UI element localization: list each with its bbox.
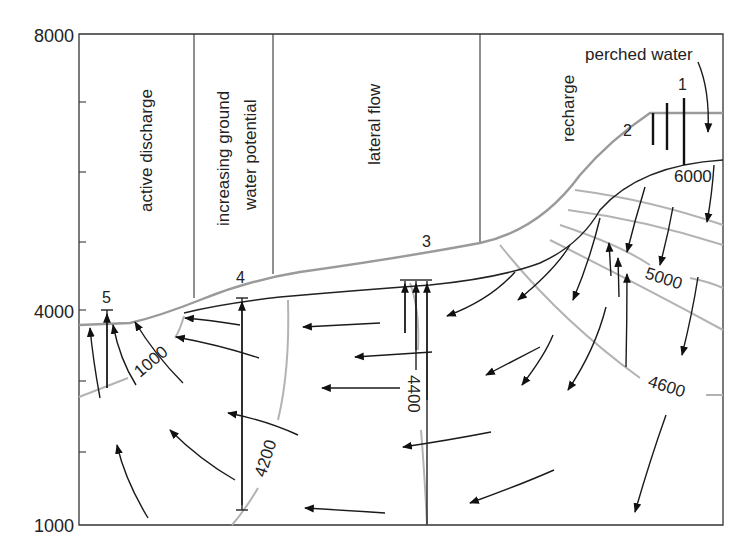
zone-label-increasing-potential-1: increasing ground: [214, 91, 233, 226]
well-label-4: 4: [236, 269, 245, 286]
equipotential-line-4200: [278, 300, 288, 420]
equipotential-line: [575, 190, 723, 225]
flow-arrow: [303, 323, 380, 327]
well-label-5: 5: [102, 289, 111, 306]
zone-label-increasing-potential-2: water potential: [241, 99, 260, 211]
equipotential-line-4400: [410, 283, 418, 350]
equipotential-line: [560, 225, 650, 265]
flow-arrow: [170, 430, 235, 480]
equipotential-line-4600: [500, 245, 640, 378]
well-label-3: 3: [422, 233, 431, 250]
flow-arrow: [660, 207, 673, 265]
flow-arrow: [470, 470, 554, 503]
flow-arrow: [305, 508, 385, 513]
well-label-1: 1: [678, 76, 687, 93]
contour-label-6000: 6000: [674, 167, 712, 186]
y-tick-label-1000: 1000: [34, 516, 74, 536]
zone-label-recharge: recharge: [559, 75, 578, 142]
y-tick-label-8000: 8000: [34, 26, 74, 46]
zone-label-active-discharge: active discharge: [137, 89, 156, 212]
flow-arrow: [117, 445, 148, 518]
flow-arrow: [518, 245, 570, 300]
flow-arrow-up: [626, 274, 627, 367]
equipotential-line: [690, 278, 723, 288]
contour-label-1000: 1000: [130, 342, 171, 381]
flow-arrow: [635, 415, 666, 512]
equipotential-line: [175, 316, 184, 338]
equipotential-line-1000: [79, 378, 128, 397]
flow-arrow: [176, 337, 259, 358]
perched-water-label: perched water: [585, 45, 693, 64]
contour-label-5000: 5000: [643, 264, 685, 294]
flow-arrow: [355, 352, 432, 357]
zone-label-lateral-flow: lateral flow: [365, 83, 384, 165]
water-table: [184, 160, 723, 313]
flow-arrow: [568, 307, 606, 390]
flow-arrow: [522, 335, 553, 385]
flow-arrow-up: [618, 258, 619, 297]
contour-label-4200: 4200: [251, 437, 281, 479]
flow-arrow: [113, 325, 136, 385]
flow-arrow: [228, 413, 298, 435]
equipotential-line: [568, 210, 723, 245]
flow-arrow: [185, 318, 240, 325]
contour-label-4400: 4400: [404, 375, 423, 413]
flow-arrow: [403, 432, 491, 447]
contour-label-4600: 4600: [646, 372, 688, 402]
y-tick-label-4000: 4000: [34, 302, 74, 322]
well-label-2: 2: [623, 122, 632, 139]
equipotential-line-4200: [232, 488, 258, 525]
cross-section-diagram: 8000 4000 1000 active discharge increasi…: [0, 0, 749, 559]
flow-arrow: [90, 328, 100, 398]
perched-water-arrow: [698, 62, 708, 132]
